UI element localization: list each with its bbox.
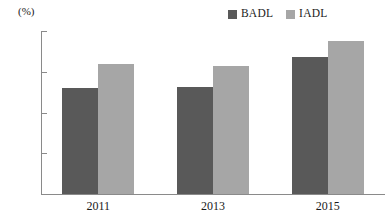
bar-badl-2015	[292, 57, 328, 194]
bar-iadl-2011	[98, 64, 134, 194]
bar-chart: BADL IADL (%) 010203040 201120132015	[0, 0, 390, 224]
y-axis-tick	[42, 113, 47, 114]
plot-area	[41, 31, 385, 194]
y-axis-unit-label: (%)	[18, 6, 35, 17]
bar-badl-2013	[177, 87, 213, 194]
legend-label-badl: BADL	[241, 8, 273, 20]
x-axis-label-2015: 2015	[316, 200, 340, 212]
y-axis-tick	[42, 194, 47, 195]
y-axis-tick	[42, 153, 47, 154]
legend-swatch-badl	[228, 10, 237, 19]
legend-entry-badl: BADL	[228, 8, 273, 20]
x-axis-label-2013: 2013	[201, 200, 225, 212]
x-axis-line	[41, 194, 385, 195]
bar-iadl-2015	[328, 41, 364, 194]
x-axis-label-2011: 2011	[87, 200, 111, 212]
bar-badl-2011	[62, 88, 98, 194]
legend-entry-iadl: IADL	[286, 8, 327, 20]
y-axis-tick	[42, 72, 47, 73]
bar-iadl-2013	[213, 66, 249, 194]
chart-legend: BADL IADL	[228, 7, 327, 21]
legend-label-iadl: IADL	[299, 8, 327, 20]
x-axis-category-labels: 201120132015	[41, 200, 385, 218]
legend-swatch-iadl	[286, 10, 295, 19]
y-axis-tick	[42, 31, 47, 32]
